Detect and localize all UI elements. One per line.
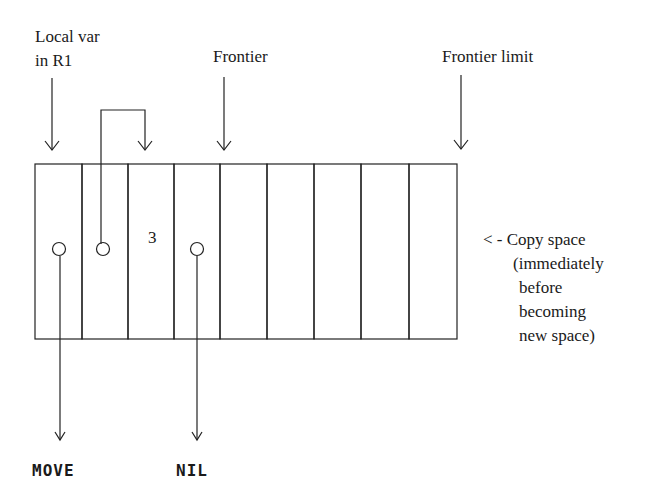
grid-cell-8: [361, 164, 409, 339]
frontier-label: Frontier: [213, 47, 268, 66]
cell-value-3: 3: [148, 228, 157, 247]
nil-label: NIL: [176, 461, 208, 480]
grid-cell-6: [267, 164, 314, 339]
forward-pointer-bracket: [101, 110, 145, 244]
copy-space-label: < - Copy space (immediately before becom…: [483, 230, 604, 345]
local-var-label-line1: Local var: [35, 27, 100, 46]
pointer-dot-cell-4: [191, 243, 204, 256]
copy-space-line-1: < - Copy space: [483, 230, 586, 249]
pointer-dot-cell-2: [97, 243, 110, 256]
grid-cell-9: [409, 164, 457, 339]
frontier-limit-label: Frontier limit: [442, 47, 533, 66]
local-var-label-line2: in R1: [35, 51, 72, 70]
copy-space-line-2: (immediately: [513, 254, 604, 273]
copy-space-diagram: Local var in R1 Frontier Frontier limit …: [0, 0, 668, 490]
grid-cell-3: [128, 164, 174, 339]
copy-space-line-3: before: [519, 278, 562, 297]
grid-cell-1: [35, 164, 82, 339]
grid-cell-5: [220, 164, 267, 339]
grid-cell-2: [82, 164, 128, 339]
copy-space-line-5: new space): [519, 326, 595, 345]
copy-space-line-4: becoming: [519, 302, 587, 321]
grid-cell-7: [314, 164, 361, 339]
pointer-dot-cell-1: [53, 243, 66, 256]
move-label: MOVE: [32, 461, 75, 480]
copy-space-grid: [35, 164, 457, 339]
